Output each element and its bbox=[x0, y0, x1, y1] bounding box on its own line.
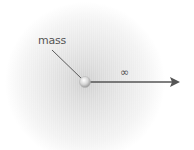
mass-sphere bbox=[80, 77, 91, 88]
diagram-canvas: mass ∞ bbox=[0, 0, 194, 150]
diagram-overlay bbox=[0, 0, 194, 150]
mass-leader-line bbox=[52, 50, 82, 79]
infinity-label: ∞ bbox=[120, 66, 129, 79]
mass-label: mass bbox=[38, 34, 66, 47]
